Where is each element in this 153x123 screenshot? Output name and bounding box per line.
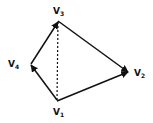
vertex-label-v3: V3 [53, 6, 64, 17]
vertex-label-v1: V1 [53, 107, 64, 118]
edge-v3-v1-dashed [57, 22, 58, 100]
edge-v3-v2 [58, 21, 128, 72]
vertex-label-v4: V4 [8, 59, 19, 70]
graph-diagram: V3 V4 V2 V1 [0, 0, 153, 123]
edge-v1-v4 [31, 65, 57, 100]
vertex-label-v2: V2 [134, 68, 145, 79]
edge-v4-v3 [31, 22, 58, 64]
edge-v1-v2 [57, 72, 128, 101]
